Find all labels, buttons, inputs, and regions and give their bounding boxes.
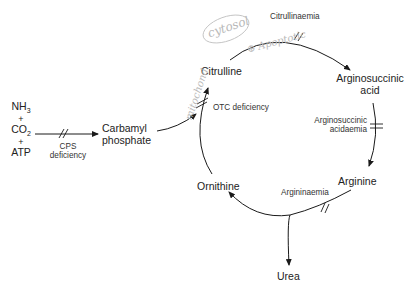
asa-to-arginine-arc (369, 103, 376, 166)
otc-deficiency-label: OTC deficiency (213, 103, 269, 112)
argininosuccinic-acid-node: Arginosuccinic acid (330, 72, 409, 96)
cps-deficiency-label: CPS deficiency (46, 142, 90, 161)
plus-sign: + (10, 138, 32, 146)
ornithine-node: Ornithine (197, 180, 240, 192)
ornithine-to-citrulline-arc (200, 88, 212, 174)
urea-node: Urea (277, 270, 300, 282)
arginine-node: Arginine (338, 175, 377, 187)
plus-sign: + (10, 115, 32, 123)
argininaemia-label: Argininaemia (281, 188, 329, 197)
carbamyl-phosphate-node: Carbamyl phosphate (102, 122, 151, 146)
citrullinaemia-label: Citrullinaemia (270, 12, 320, 21)
input-stack: NH3 + CO2 + ATP (10, 100, 32, 158)
co2-label: CO2 (10, 123, 32, 138)
urea-arrow (288, 215, 290, 265)
argininosuccinic-acidaemia-label: Arginosuccinic acidaemia (303, 116, 367, 135)
atp-label: ATP (10, 146, 32, 158)
nh3-label: NH3 (10, 100, 32, 115)
